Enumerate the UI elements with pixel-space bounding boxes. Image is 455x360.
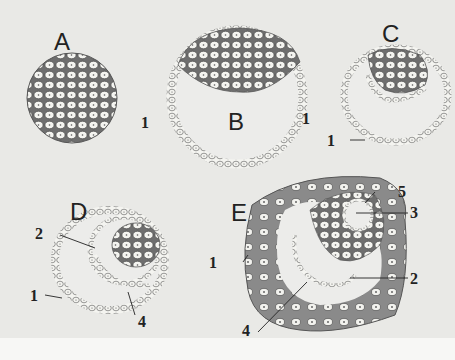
panel-label-e: E [231,201,247,225]
callout-e-5: 5 [398,184,406,200]
callout-d-4: 4 [138,314,146,330]
panel-label-d: D [70,200,87,224]
callout-e-4: 4 [242,323,250,339]
callout-d-2: 2 [35,226,43,242]
callout-e-2: 2 [410,271,418,287]
callout-c-1: 1 [327,133,335,149]
panel-c-blastocyst [344,48,448,142]
bottom-margin [0,338,455,360]
callout-e-3: 3 [410,205,418,221]
panel-e-implanted [245,177,406,331]
callout-e-1: 1 [209,255,217,271]
panel-b-blastocyst [171,28,303,164]
panel-label-a: A [54,30,70,54]
callout-d-1: 1 [30,288,38,304]
panel-label-c: C [382,22,399,46]
panel-label-b: B [228,110,244,134]
panel-d-bilaminar [55,210,165,310]
callout-a-1: 1 [141,115,149,131]
panel-a-morula [27,53,117,143]
callout-b-1: 1 [302,111,310,127]
